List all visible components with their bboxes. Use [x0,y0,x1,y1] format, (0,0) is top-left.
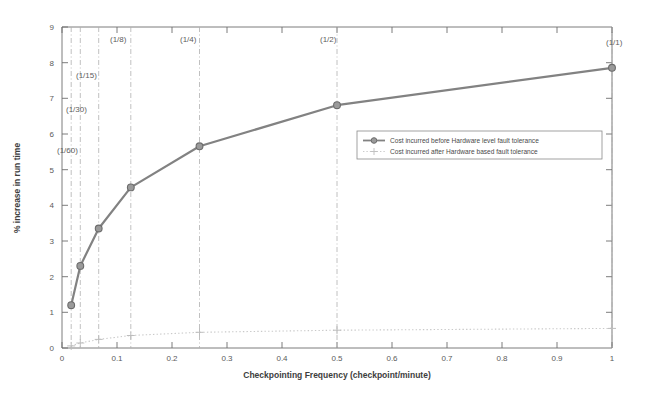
y-tick-label: 1 [50,308,55,317]
x-tick-label: 0.7 [441,354,453,363]
y-tick-labels: 0 1 2 3 4 5 6 7 8 9 [50,23,55,353]
annotation-label: (1/4) [180,35,197,44]
annotation-label: (1/1) [606,38,623,47]
data-point-marker [68,302,75,309]
x-tick-label: 0.9 [551,354,563,363]
y-axis-title: % increase in run time [12,143,22,233]
x-tick-label: 0 [60,354,65,363]
annotation-label: (1/15) [76,71,97,80]
x-tick-label: 0.8 [496,354,508,363]
annotation-label: (1/60) [57,146,78,155]
data-point-marker [609,64,616,71]
chart-canvas: 0 0.1 0.2 0.3 0.4 0.5 0.6 0.7 0.8 0.9 1 … [0,0,649,408]
y-tick-label: 2 [50,273,55,282]
x-tick-label: 0.3 [221,354,233,363]
legend-label-after: Cost incurred after Hardware based fault… [390,148,538,155]
data-point-marker [77,263,84,270]
y-tick-label: 5 [50,166,55,175]
x-tick-label: 0.1 [111,354,123,363]
legend-label-before: Cost incurred before Hardware level faul… [390,137,539,144]
data-point-marker [196,143,203,150]
y-tick-label: 0 [50,344,55,353]
x-tick-label: 0.6 [386,354,398,363]
data-point-marker [334,102,341,109]
chart-legend: Cost incurred before Hardware level faul… [357,131,602,159]
data-point-marker [127,184,134,191]
y-tick-label: 7 [50,94,55,103]
annotation-label: (1/8) [110,35,127,44]
y-tick-label: 9 [50,23,55,32]
y-tick-label: 6 [50,130,55,139]
x-tick-label: 0.4 [276,354,288,363]
x-axis-title: Checkpointing Frequency (checkpoint/minu… [243,370,431,380]
chart-figure: 0 0.1 0.2 0.3 0.4 0.5 0.6 0.7 0.8 0.9 1 … [0,0,649,408]
x-tick-label: 0.5 [331,354,343,363]
data-point-marker [95,225,102,232]
annotation-label: (1/2) [320,35,337,44]
x-tick-label: 0.2 [166,354,178,363]
y-tick-label: 3 [50,237,55,246]
x-tick-labels: 0 0.1 0.2 0.3 0.4 0.5 0.6 0.7 0.8 0.9 1 [60,354,615,363]
annotation-label: (1/30) [66,105,87,114]
legend-swatch-before-marker [371,138,377,144]
y-tick-label: 8 [50,59,55,68]
y-tick-label: 4 [50,201,55,210]
x-tick-label: 1 [610,354,615,363]
